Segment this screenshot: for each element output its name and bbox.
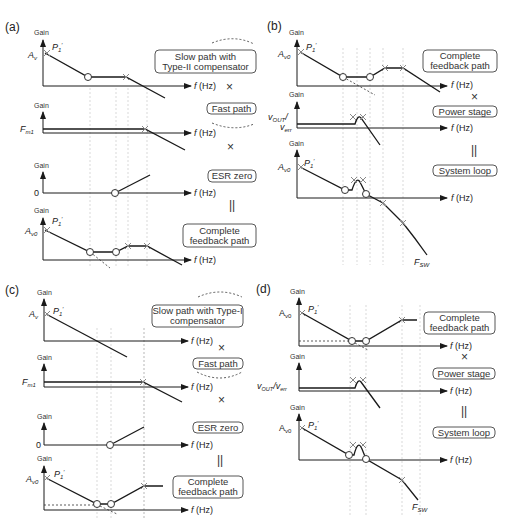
gain-value-label: Av <box>27 50 38 61</box>
multiply-operator: × <box>227 140 234 154</box>
block-label-line: feedback path <box>430 60 490 71</box>
gridlines <box>343 48 403 265</box>
panel-label: (a) <box>5 20 20 34</box>
zero-marker-icon <box>108 501 115 508</box>
y-axis-label: Gain <box>37 413 52 420</box>
gain-curve <box>43 129 185 150</box>
y-axis-label: Gain <box>34 207 49 214</box>
pole-marker-icon <box>44 311 50 317</box>
dashed-arc <box>212 39 254 44</box>
zero-marker-icon <box>363 191 370 198</box>
pole-marker-icon <box>44 475 50 481</box>
pole-marker-icon <box>299 425 305 431</box>
equals-operator: || <box>217 453 223 467</box>
block-label-line: feedback path <box>190 235 250 246</box>
gain-value-label: vOUT/ <box>268 112 289 123</box>
gain-curve <box>302 428 418 500</box>
x-axis-label: f (Hz) <box>451 123 473 133</box>
plot-slow-path: Gain f (Hz) Av P1′ Slow path with Type-I… <box>28 289 243 357</box>
block-label-line: System loop <box>438 427 490 438</box>
plot-complete-feedback: Gain f (Hz) Av0 P1′ Complete feedback pa… <box>279 288 495 364</box>
plot-slow-path: Gain f (Hz) Av P1′ Slow path with Type-I… <box>27 29 256 98</box>
multiply-operator: × <box>471 90 478 104</box>
pole-marker-icon <box>350 114 356 120</box>
plot-power-stage: Gain f (Hz) vOUT/ verr Power stage || <box>268 91 497 157</box>
pole-marker-icon <box>44 50 50 56</box>
x-axis-label: f (Hz) <box>451 80 473 90</box>
gain-curve <box>297 117 380 145</box>
y-axis-label: Gain <box>34 162 49 169</box>
multiply-operator: × <box>218 341 225 355</box>
pole-label: P1′ <box>308 304 319 315</box>
x-axis-label: f (Hz) <box>191 336 213 346</box>
block-label-line: Power stage <box>438 368 491 379</box>
pole-marker-icon <box>360 377 366 383</box>
zero-marker-icon <box>112 190 119 197</box>
gain-value-label: 0 <box>34 188 39 198</box>
gain-curve <box>45 53 165 98</box>
equals-operator: || <box>229 198 235 212</box>
gain-value-label: Av0 <box>277 49 291 60</box>
zero-marker-icon <box>346 452 353 459</box>
gain-curve <box>46 314 127 357</box>
pole-marker-icon <box>360 442 366 448</box>
panel-label: (d) <box>256 282 271 296</box>
block-label-line: Fast path <box>198 358 238 369</box>
pole-marker-icon <box>351 177 357 183</box>
panel-a: (a) Gain f (Hz) Av P1′ Slow path with Ty… <box>5 20 256 268</box>
equals-operator: || <box>471 143 477 157</box>
gain-value-label: Av0 <box>279 423 292 434</box>
panel-b: (b) Gain f (Hz) Av0 P1′ Complete feed <box>267 19 497 268</box>
block-label-line: compensator <box>170 315 225 326</box>
multiply-operator: × <box>226 80 233 94</box>
pole-marker-icon <box>44 227 50 233</box>
pole-label: P1′ <box>52 42 63 53</box>
gain-curve <box>44 382 182 402</box>
y-axis-label: Gain <box>290 288 305 295</box>
plot-system-loop: Gain f (Hz) Av0 P1′ FSW System loop <box>277 140 497 268</box>
y-axis-label: Gain <box>289 91 304 98</box>
plot-system-loop: Gain f (Hz) Av0 P1′ FSW System loop <box>279 404 495 513</box>
panel-d: (d) Gain f (Hz) Av0 P1′ Complete feedbac… <box>256 282 495 515</box>
gridlines <box>350 305 420 515</box>
zero-marker-icon <box>363 456 370 463</box>
gain-curve <box>115 175 150 193</box>
dashed-arc <box>198 292 242 297</box>
plot-esr-zero: Gain f (Hz) 0 ESR zero || <box>36 413 243 467</box>
zero-marker-icon <box>363 338 370 345</box>
y-axis-label: Gain <box>290 353 305 360</box>
multiply-operator: × <box>461 350 468 364</box>
panel-c: (c) Gain f (Hz) Av P1′ Slow path with Ty… <box>5 283 243 520</box>
zero-marker-icon <box>342 187 349 194</box>
x-axis-label: f (Hz) <box>450 455 472 465</box>
block-label-line: Type-II compensator <box>162 61 249 72</box>
x-axis-label: f (Hz) <box>194 81 216 91</box>
zero-marker-icon <box>85 74 92 81</box>
pole-marker-icon <box>350 377 356 383</box>
pole-marker-icon <box>299 310 305 316</box>
zero-marker-icon <box>340 74 347 81</box>
panel-label: (c) <box>5 283 19 297</box>
pole-label: P1′ <box>304 158 315 169</box>
gain-value-label: Fm1 <box>20 124 34 135</box>
x-axis-label: f (Hz) <box>194 128 216 138</box>
gain-value-label: vOUT/verr <box>257 381 288 392</box>
panel-label: (b) <box>267 19 282 33</box>
y-axis-label: Gain <box>34 102 49 109</box>
zero-marker-icon <box>113 249 120 256</box>
gain-value-label: Av0 <box>279 308 292 319</box>
y-axis-label: Gain <box>290 404 305 411</box>
equals-operator: || <box>461 404 467 418</box>
pole-label: P1′ <box>53 306 64 317</box>
pole-label: P1′ <box>308 420 319 431</box>
y-axis-label: Gain <box>34 29 49 36</box>
plot-complete-feedback: Gain f (Hz) Av0 P1′ Complete feedback pa… <box>24 207 256 268</box>
plot-complete-feedback: Gain f (Hz) Av0 P1′ Complete feedback pa… <box>277 29 497 104</box>
pole-label: P1′ <box>306 42 317 53</box>
block-label-line: feedback path <box>178 486 238 497</box>
y-axis-label: Gain <box>37 455 52 462</box>
plot-complete-feedback: Gain f (Hz) Av0 P1′ Complete feedback pa… <box>25 455 243 515</box>
plot-fast-path: Gain f (Hz) Fm1 Fast path × <box>20 102 256 154</box>
x-axis-label: f (Hz) <box>194 188 216 198</box>
multiply-operator: × <box>218 393 225 407</box>
